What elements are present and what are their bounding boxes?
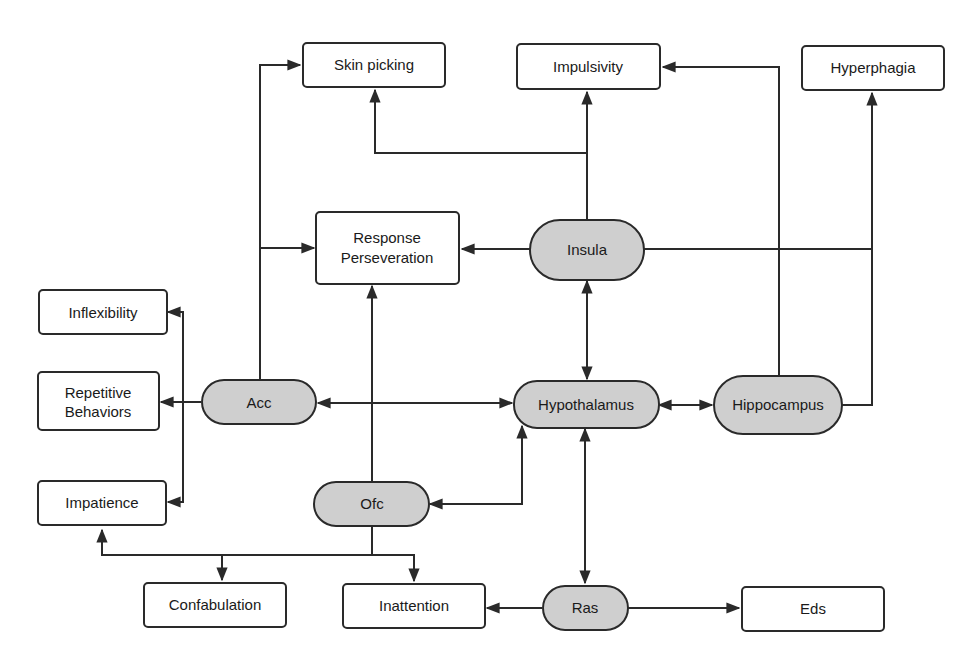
edge-acc-inflexibility: [168, 312, 183, 402]
label-skin-picking: Skin picking: [334, 56, 414, 73]
node-inflexibility: Inflexibility: [39, 290, 167, 334]
node-insula: Insula: [530, 220, 644, 280]
node-eds: Eds: [742, 587, 884, 631]
node-ras: Ras: [543, 586, 628, 630]
node-hippocampus: Hippocampus: [714, 376, 842, 434]
label-ofc: Ofc: [360, 495, 384, 512]
edge-acc-impatience: [168, 402, 183, 502]
node-impatience: Impatience: [38, 481, 166, 525]
edge-ofc-impatience: [102, 530, 372, 555]
node-inattention: Inattention: [343, 584, 485, 628]
label-response-perseveration-2: Perseveration: [341, 249, 434, 266]
brain-region-symptom-diagram: Skin picking Impulsivity Hyperphagia Res…: [0, 0, 976, 661]
label-acc: Acc: [246, 394, 272, 411]
node-repetitive-behaviors: Repetitive Behaviors: [38, 372, 159, 430]
label-repetitive-behaviors-1: Repetitive: [65, 384, 132, 401]
node-ofc: Ofc: [314, 482, 429, 526]
outcome-nodes: Skin picking Impulsivity Hyperphagia Res…: [38, 43, 944, 631]
node-impulsivity: Impulsivity: [517, 44, 660, 89]
label-hippocampus: Hippocampus: [732, 396, 824, 413]
label-inattention: Inattention: [379, 597, 449, 614]
node-hypothalamus: Hypothalamus: [514, 381, 659, 428]
label-repetitive-behaviors-2: Behaviors: [65, 403, 132, 420]
label-inflexibility: Inflexibility: [68, 304, 138, 321]
node-confabulation: Confabulation: [144, 583, 286, 627]
edge-ofc-hypothalamus: [430, 426, 522, 504]
label-insula: Insula: [567, 241, 608, 258]
node-hyperphagia: Hyperphagia: [802, 46, 944, 90]
label-response-perseveration-1: Response: [353, 229, 421, 246]
node-acc: Acc: [202, 380, 316, 424]
edge-ofc-inattention: [372, 555, 414, 581]
edge-insula-skin-picking: [375, 90, 587, 153]
node-skin-picking: Skin picking: [303, 43, 445, 87]
label-hypothalamus: Hypothalamus: [538, 396, 634, 413]
label-hyperphagia: Hyperphagia: [830, 59, 916, 76]
edge-acc-skin-picking: [260, 65, 300, 382]
edge-hippocampus-impulsivity: [663, 67, 779, 375]
label-impatience: Impatience: [65, 494, 138, 511]
label-impulsivity: Impulsivity: [553, 58, 624, 75]
node-response-perseveration: Response Perseveration: [316, 212, 459, 284]
label-ras: Ras: [572, 599, 599, 616]
label-eds: Eds: [800, 600, 826, 617]
edges: [102, 65, 872, 608]
label-confabulation: Confabulation: [169, 596, 262, 613]
region-nodes: Insula Acc Hypothalamus Hippocampus Ofc …: [202, 220, 842, 630]
